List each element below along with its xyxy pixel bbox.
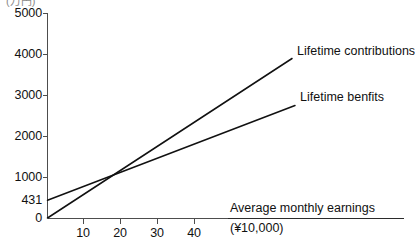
series-line-lifetime-benfits — [48, 106, 296, 201]
x-tick-label-40: 40 — [181, 227, 207, 240]
y-tick-label-4000: 4000 — [0, 48, 42, 61]
series-label-lifetime-benfits: Lifetime benfits — [300, 90, 384, 104]
x-tick-label-10: 10 — [70, 227, 96, 240]
x-tick-label-30: 30 — [144, 227, 170, 240]
y-tick-label-3000: 3000 — [0, 89, 42, 102]
x-axis-title: Average monthly earnings — [230, 201, 375, 216]
x-axis-unit: (¥10,000) — [230, 221, 284, 236]
y-tick-label-431: 431 — [0, 194, 42, 207]
x-tick-label-20: 20 — [107, 227, 133, 240]
series-label-lifetime-contributions: Lifetime contributions — [297, 44, 415, 58]
y-tick-label-2000: 2000 — [0, 130, 42, 143]
y-tick-label-0: 0 — [0, 212, 42, 225]
y-tick-label-1000: 1000 — [0, 171, 42, 184]
y-tick-label-5000: 5000 — [0, 7, 42, 20]
series-line-lifetime-contributions — [48, 59, 293, 219]
